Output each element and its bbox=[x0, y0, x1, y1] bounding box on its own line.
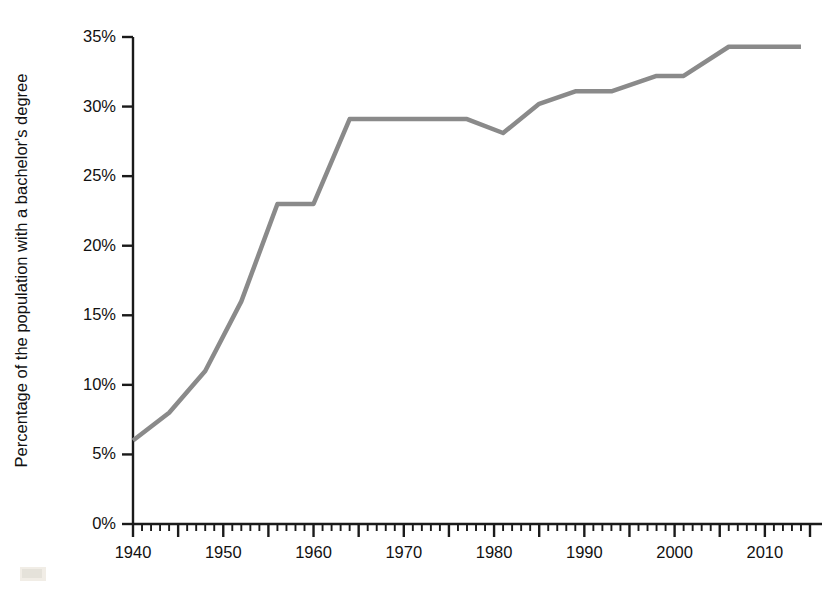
data-line bbox=[133, 47, 801, 441]
y-tick-label: 25% bbox=[46, 167, 116, 184]
x-tick-label: 1940 bbox=[98, 544, 168, 561]
y-tick-label: 10% bbox=[46, 376, 116, 393]
x-tick-label: 2010 bbox=[730, 544, 800, 561]
chart-figure: Percentage of the population with a bach… bbox=[0, 0, 837, 589]
y-tick-label: 0% bbox=[46, 515, 116, 532]
x-tick-label: 1980 bbox=[459, 544, 529, 561]
data-series bbox=[133, 47, 801, 441]
y-tick-label: 5% bbox=[46, 445, 116, 462]
x-tick-label: 1960 bbox=[279, 544, 349, 561]
axis-ticks bbox=[122, 37, 810, 537]
page-artifact-inner bbox=[22, 569, 42, 578]
y-tick-label: 30% bbox=[46, 98, 116, 115]
axes bbox=[133, 37, 822, 524]
x-tick-label: 1990 bbox=[549, 544, 619, 561]
y-tick-label: 15% bbox=[46, 306, 116, 323]
x-tick-label: 1970 bbox=[369, 544, 439, 561]
x-tick-label: 2000 bbox=[640, 544, 710, 561]
y-tick-label: 20% bbox=[46, 237, 116, 254]
y-tick-label: 35% bbox=[46, 28, 116, 45]
chart-canvas bbox=[0, 0, 837, 589]
x-tick-label: 1950 bbox=[188, 544, 258, 561]
